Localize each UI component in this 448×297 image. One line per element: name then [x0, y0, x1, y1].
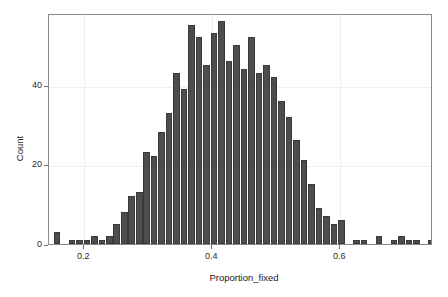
- histogram-bar: [361, 240, 368, 244]
- x-axis-title: Proportion_fixed: [0, 272, 448, 283]
- histogram-bar: [398, 236, 405, 244]
- histogram-bar: [316, 208, 323, 244]
- x-tick-label: 0.2: [77, 251, 90, 261]
- histogram-figure: Count 020400.20.40.6 Proportion_fixed: [0, 0, 448, 297]
- histogram-bar: [151, 156, 158, 244]
- histogram-bar: [256, 73, 263, 244]
- histogram-bar: [203, 65, 210, 244]
- histogram-bar: [211, 33, 218, 244]
- histogram-bar: [323, 216, 330, 244]
- y-tick-mark: [44, 245, 48, 246]
- histogram-bar: [301, 160, 308, 244]
- histogram-bar: [158, 132, 165, 244]
- gridline-vertical: [340, 15, 341, 244]
- x-tick-mark: [339, 245, 340, 249]
- histogram-bar: [113, 224, 120, 244]
- histogram-bar: [241, 69, 248, 244]
- histogram-bar: [188, 25, 195, 244]
- histogram-bar: [106, 236, 113, 244]
- x-tick-mark: [211, 245, 212, 249]
- histogram-bar: [308, 184, 315, 244]
- x-tick-label: 0.6: [333, 251, 346, 261]
- histogram-bar: [248, 37, 255, 244]
- gridline-vertical: [84, 15, 85, 244]
- histogram-bar: [271, 77, 278, 244]
- histogram-bar: [76, 240, 83, 244]
- histogram-bar: [226, 61, 233, 244]
- y-tick-label: 20: [24, 159, 42, 169]
- histogram-bar: [181, 89, 188, 244]
- histogram-bar: [84, 240, 91, 244]
- y-tick-label: 40: [24, 80, 42, 90]
- x-axis-title-text: Proportion_fixed: [209, 272, 278, 283]
- histogram-bar: [128, 196, 135, 244]
- histogram-bar: [173, 73, 180, 244]
- histogram-bar: [196, 37, 203, 244]
- histogram-bar: [391, 240, 398, 244]
- histogram-bar: [69, 240, 76, 244]
- histogram-bar: [233, 45, 240, 244]
- histogram-bar: [143, 152, 150, 244]
- histogram-bar: [218, 21, 225, 244]
- y-tick-mark: [44, 86, 48, 87]
- histogram-bar: [54, 232, 61, 244]
- histogram-bar: [428, 240, 432, 244]
- histogram-bar: [376, 236, 383, 244]
- x-tick-label: 0.4: [205, 251, 218, 261]
- histogram-bar: [413, 240, 420, 244]
- histogram-bar: [293, 140, 300, 244]
- histogram-bar: [99, 240, 106, 244]
- histogram-bar: [338, 220, 345, 244]
- histogram-bar: [406, 240, 413, 244]
- histogram-bar: [286, 117, 293, 244]
- histogram-bar: [278, 101, 285, 244]
- plot-area: [48, 14, 432, 245]
- y-tick-mark: [44, 165, 48, 166]
- histogram-bar: [136, 192, 143, 244]
- y-axis-title-text: Count: [15, 136, 26, 161]
- histogram-bar: [353, 240, 360, 244]
- histogram-bar: [166, 113, 173, 244]
- x-tick-mark: [83, 245, 84, 249]
- y-axis-title: Count: [14, 0, 26, 297]
- histogram-bar: [91, 236, 98, 244]
- y-tick-label: 0: [24, 239, 42, 249]
- histogram-bar: [121, 212, 128, 244]
- histogram-bar: [331, 224, 338, 244]
- histogram-bar: [263, 65, 270, 244]
